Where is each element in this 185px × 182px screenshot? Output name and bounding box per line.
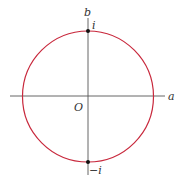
horizontal-axis-label: a xyxy=(168,90,175,103)
complex-plane-diagram: b a O i −i xyxy=(0,0,185,182)
point-minus-i-label: −i xyxy=(89,164,102,177)
origin-label: O xyxy=(74,101,83,114)
point-i xyxy=(86,29,90,33)
point-i-label: i xyxy=(92,19,96,32)
vertical-axis-label: b xyxy=(84,6,91,19)
